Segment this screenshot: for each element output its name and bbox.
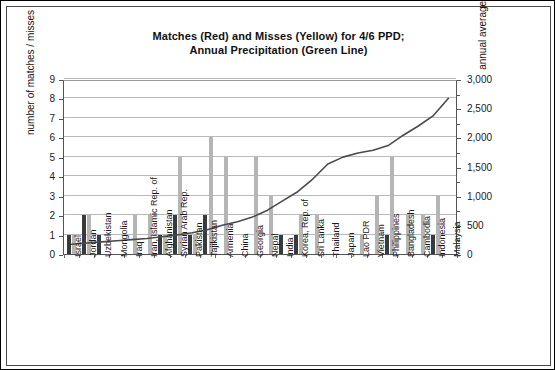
x-axis-tick-label: Jordan [89, 229, 98, 257]
x-axis-tick-label: Malaysia [453, 221, 462, 257]
x-axis-tick-label: Georgia [256, 225, 265, 257]
chart-title-line-2: Annual Precipitation (Green Line) [7, 43, 550, 57]
y-axis-tick-label: 9 [21, 75, 55, 85]
x-axis-tick-label: Korea, Rep. of [301, 199, 310, 257]
x-axis-tick-label: Syrian Arab Rep. [180, 189, 189, 257]
x-axis-tick-label: Cambodia [423, 216, 432, 257]
secondary-y-axis-tick-label: 1,000 [467, 192, 507, 202]
gridline [64, 78, 456, 79]
x-axis-tick-label: Armenia [226, 223, 235, 257]
y-axis-tick-label: 7 [21, 114, 55, 124]
x-axis-tick-label: Lao PDR [362, 220, 371, 257]
x-axis-tick-label: Indonesia [438, 218, 447, 257]
x-axis-tick-label: Uzbekistan [104, 212, 113, 257]
secondary-y-axis-tick-label: 2,500 [467, 104, 507, 114]
y-axis-tick-label: 2 [21, 211, 55, 221]
y-axis-tick-label: 5 [21, 153, 55, 163]
x-axis-tick-label: Pakistan [195, 222, 204, 257]
secondary-y-axis-tick-label: 1,500 [467, 163, 507, 173]
y-axis-tick-label: 0 [21, 250, 55, 260]
x-axis-tick-label: Israel [74, 235, 83, 257]
x-axis-tick-label: Iran, Islamic Rep. of [150, 177, 159, 257]
x-axis-tick-label: Philippines [392, 213, 401, 257]
x-axis-tick-label: Bangladesh [407, 209, 416, 257]
x-axis-tick-label: Sri Lanka [317, 219, 326, 257]
secondary-y-axis-tick-label: 2,000 [467, 133, 507, 143]
y-axis-tick-label: 8 [21, 94, 55, 104]
chart-title-line-1: Matches (Red) and Misses (Yellow) for 4/… [7, 29, 550, 43]
x-axis-tick-label: Mongolia [120, 220, 129, 257]
y-axis-tick-label: 3 [21, 192, 55, 202]
x-axis-tick-label: China [241, 233, 250, 257]
secondary-y-axis-title: annual average precipitation [477, 0, 488, 102]
x-axis-tick-labels: IsraelJordanUzbekistanMongoliaIraqIran, … [63, 257, 457, 362]
x-axis-tick-label: Vietnam [377, 224, 386, 257]
x-axis-tick-label: Afghanistan [165, 209, 174, 257]
y-axis-tick-label: 4 [21, 172, 55, 182]
x-axis-tick-label: Nepal [271, 233, 280, 257]
x-axis-tick-label: Thailand [332, 222, 341, 257]
secondary-y-axis-tick-label: 500 [467, 221, 507, 231]
x-axis-tick-label: Iraq [135, 241, 144, 257]
secondary-y-axis-tick-label: 0 [467, 250, 507, 260]
y-axis-tick [59, 255, 63, 256]
y-axis-tick-label: 6 [21, 133, 55, 143]
y-axis-tick-label: 1 [21, 231, 55, 241]
chart-figure: Matches (Red) and Misses (Yellow) for 4/… [0, 0, 555, 370]
x-axis-tick-label: Tajikistan [210, 220, 219, 257]
chart-frame: Matches (Red) and Misses (Yellow) for 4/… [6, 6, 551, 366]
x-axis-tick-label: Japan [347, 232, 356, 257]
chart-title: Matches (Red) and Misses (Yellow) for 4/… [7, 29, 550, 57]
secondary-y-axis-tick-label: 3,000 [467, 75, 507, 85]
x-axis-tick-label: India [286, 237, 295, 257]
